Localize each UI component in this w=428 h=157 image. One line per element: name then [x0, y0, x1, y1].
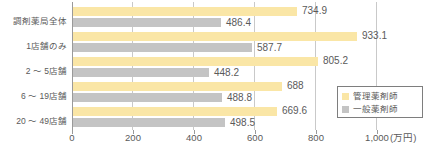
bar-value-label: 805.2	[323, 56, 348, 66]
horizontal-bar-chart: 調剤薬局全体 1店舗のみ 2 〜 5店舗 6 〜 19店舗 20 〜 49店舗 …	[0, 0, 428, 157]
bar-manager	[73, 32, 357, 41]
x-tick-label: 400	[186, 132, 202, 143]
bar-value-label: 488.8	[227, 93, 252, 103]
category-label: 2 〜 5店舗	[0, 66, 67, 76]
bar-general	[73, 43, 252, 52]
category-label: 1店舗のみ	[0, 41, 67, 51]
gridline-800	[315, 2, 316, 130]
bar-value-label: 688	[287, 81, 304, 91]
bar-value-label: 734.9	[302, 6, 327, 16]
legend-item: 管理薬剤師	[342, 90, 418, 102]
x-tick-label: 200	[125, 132, 141, 143]
category-label: 20 〜 49店舗	[0, 116, 67, 126]
bar-general	[73, 93, 222, 102]
bar-manager	[73, 107, 277, 116]
bar-general	[73, 68, 209, 77]
bar-value-label: 669.6	[282, 106, 307, 116]
bar-value-label: 587.7	[257, 43, 282, 53]
x-axis-unit-label: (万円)	[390, 132, 416, 143]
bar-value-label: 448.2	[214, 68, 239, 78]
x-tick-label: 800	[308, 132, 324, 143]
x-tick-label: 0	[69, 132, 74, 143]
bar-general	[73, 18, 221, 27]
bar-value-label: 498.5	[230, 118, 255, 128]
category-label: 調剤薬局全体	[0, 16, 67, 26]
legend-swatch-icon	[342, 106, 349, 113]
bar-manager	[73, 82, 282, 91]
legend-item: 一般薬剤師	[342, 103, 418, 115]
bar-value-label: 486.4	[226, 18, 251, 28]
x-axis: 0 200 400 600 800 1,000 (万円)	[0, 130, 428, 146]
bar-manager	[73, 57, 318, 66]
bar-manager	[73, 7, 297, 16]
bar-general	[73, 118, 225, 127]
legend-swatch-icon	[342, 93, 349, 100]
category-label: 6 〜 19店舗	[0, 91, 67, 101]
bar-value-label: 933.1	[362, 31, 387, 41]
category-axis: 調剤薬局全体 1店舗のみ 2 〜 5店舗 6 〜 19店舗 20 〜 49店舗	[0, 0, 70, 130]
x-tick-label: 1,000	[365, 132, 389, 143]
legend-label: 一般薬剤師	[353, 104, 398, 114]
legend-label: 管理薬剤師	[353, 91, 398, 101]
x-tick-label: 600	[247, 132, 263, 143]
chart-legend: 管理薬剤師 一般薬剤師	[337, 86, 423, 118]
